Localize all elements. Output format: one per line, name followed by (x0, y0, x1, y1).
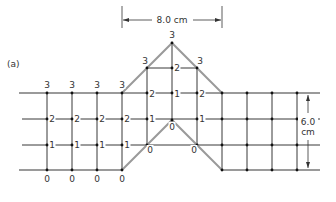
width-dimension: 8.0 cm (122, 6, 222, 28)
arrow-right-icon (215, 18, 221, 22)
node-value-label: 1 (99, 140, 105, 150)
node-value-label: 3 (169, 30, 175, 40)
arrow-left-icon (123, 18, 129, 22)
node-value-label: 1 (149, 114, 155, 124)
node-value-label: 2 (74, 114, 80, 124)
node-value-label: 3 (197, 56, 203, 66)
node-value-label: 0 (94, 174, 100, 184)
node-value-label: 3 (94, 80, 100, 90)
node-value-label: 1 (124, 140, 130, 150)
flow-net-diagram: (a) 8.0 cm (0, 0, 336, 202)
node-value-label: 0 (44, 174, 50, 184)
node-value-label: 2 (99, 114, 105, 124)
node-value-label: 2 (124, 114, 130, 124)
node-value-label: 1 (174, 89, 180, 99)
node-value-label: 2 (49, 114, 55, 124)
node-value-label: 0 (169, 122, 175, 132)
node-value-label: 0 (119, 174, 125, 184)
node-value-label: 3 (119, 80, 125, 90)
equipotential-lines (47, 43, 297, 170)
arrow-down-icon (306, 162, 310, 168)
node-value-label: 2 (174, 63, 180, 73)
node-value-label: 3 (69, 80, 75, 90)
node-value-label: 1 (49, 140, 55, 150)
node-value-label: 0 (69, 174, 75, 184)
node-value-label: 3 (142, 56, 148, 66)
node-value-label: 1 (74, 140, 80, 150)
channel-boundary (19, 43, 320, 170)
width-dimension-label: 8.0 cm (157, 15, 188, 25)
height-dimension: 6.0 cm (298, 95, 318, 168)
height-dimension-value: 6.0 (301, 117, 316, 127)
node-value-label: 2 (149, 89, 155, 99)
horizontal-flow-lines (19, 68, 320, 170)
panel-label: (a) (7, 59, 20, 69)
node-value-label: 2 (199, 89, 205, 99)
height-dimension-unit: cm (301, 127, 315, 137)
node-value-label: 0 (191, 145, 197, 155)
node-value-label: 3 (44, 80, 50, 90)
node-value-label: 1 (199, 114, 205, 124)
arrow-up-icon (306, 95, 310, 101)
node-value-label: 0 (147, 145, 153, 155)
